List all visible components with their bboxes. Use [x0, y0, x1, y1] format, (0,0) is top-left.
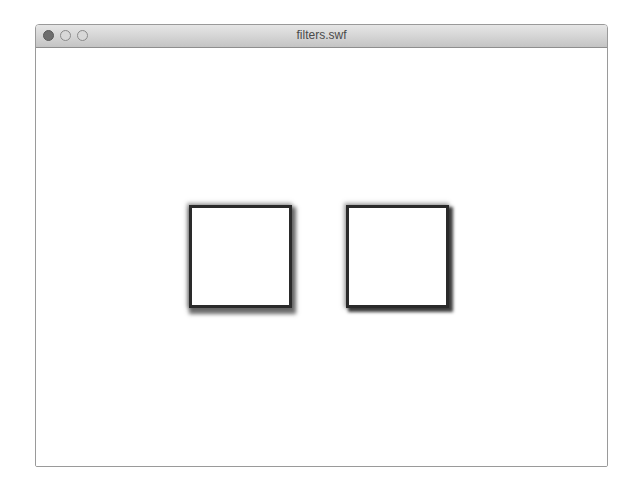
window-title: filters.swf: [36, 28, 607, 42]
filtered-square-1: [189, 205, 292, 308]
app-window: filters.swf: [35, 24, 608, 467]
filtered-square-2: [346, 205, 449, 308]
title-bar[interactable]: filters.swf: [36, 25, 607, 48]
flash-stage: [36, 48, 607, 466]
